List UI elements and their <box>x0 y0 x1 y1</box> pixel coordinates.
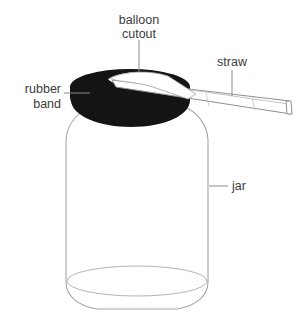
label-straw: straw <box>217 55 248 69</box>
label-balloon-cutout-line1: balloon <box>119 13 159 27</box>
label-rubber-band-line1: rubber <box>25 82 61 96</box>
label-jar: jar <box>231 179 246 193</box>
label-balloon-cutout-line2: cutout <box>122 27 157 41</box>
straw-tip <box>286 101 292 114</box>
jar-straw-diagram: balloon cutout straw rubber band jar <box>0 0 305 323</box>
diagram-root: balloon cutout straw rubber band jar <box>0 0 305 323</box>
label-rubber-band-line2: band <box>33 97 61 111</box>
jar-shape <box>66 104 208 309</box>
jar-outline <box>66 104 208 309</box>
